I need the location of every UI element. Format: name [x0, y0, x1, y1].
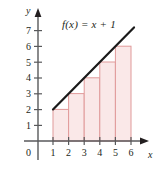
x-axis-label: x — [148, 150, 152, 160]
x-tick-label-6: 6 — [127, 148, 136, 158]
y-tick-label-3: 3 — [24, 89, 33, 99]
x-tick-label-5: 5 — [111, 148, 120, 158]
y-tick-label-4: 4 — [24, 73, 33, 83]
x-tick-label-4: 4 — [95, 148, 104, 158]
riemann-sum-figure: 7 6 5 4 3 2 1 1 2 3 4 5 6 0 y x f(x) = x… — [0, 0, 159, 169]
y-tick-label-7: 7 — [24, 26, 33, 36]
bar-2 — [69, 94, 85, 141]
y-tick-label-5: 5 — [24, 58, 33, 68]
bar-4 — [100, 62, 116, 141]
x-tick-label-1: 1 — [49, 148, 58, 158]
bar-1 — [53, 109, 69, 141]
origin-label: 0 — [24, 148, 33, 158]
y-tick-label-6: 6 — [24, 42, 33, 52]
x-tick-label-3: 3 — [80, 148, 89, 158]
y-axis-label: y — [26, 6, 30, 16]
bars-group — [53, 46, 131, 141]
y-tick-label-1: 1 — [24, 121, 33, 131]
x-tick-label-2: 2 — [64, 148, 73, 158]
bar-5 — [115, 46, 131, 141]
function-label: f(x) = x + 1 — [62, 19, 116, 30]
bar-3 — [84, 78, 100, 141]
y-tick-label-2: 2 — [24, 105, 33, 115]
